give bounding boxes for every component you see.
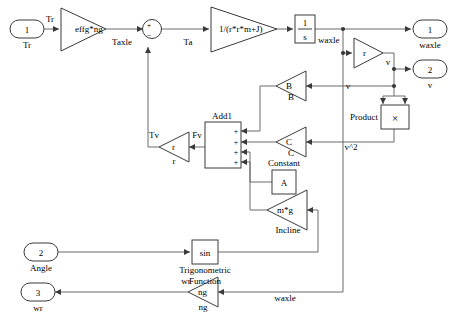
add1-block[interactable]: + + + + [205,122,241,168]
signal-label-waxle1: waxle [318,36,340,45]
signal-label-ta: Ta [184,38,193,47]
gain-ng-caption: ng [199,303,208,312]
gain-incline-expr: m*g [277,205,294,215]
inport-tr-number: 1 [25,25,30,35]
gain-B-expr: B [286,81,292,91]
integrator-numerator: 1 [303,18,308,28]
trig-caption-line2: Function [189,277,221,286]
constant-value: A [281,178,288,188]
outport-v[interactable]: 2 [413,60,447,78]
add1-sign-2: + [234,138,239,147]
gain-r-wheel-expr: r [363,48,366,58]
outport-wr[interactable]: 3 [21,283,55,301]
trig-caption-line1: Trigonometric [179,266,231,275]
signal-label-wr: wr [181,277,191,286]
outport-v-number: 2 [428,65,433,75]
gain-ng-expr: ng [198,287,208,297]
product-symbol: × [392,112,398,124]
inport-angle[interactable]: 2 [24,243,58,261]
add1-sign-4: + [234,158,239,167]
signal-label-fv: Fv [192,131,202,140]
sum-sign-minus: − [147,31,152,40]
inport-tr[interactable]: 1 [10,20,44,38]
outport-waxle-number: 1 [428,25,433,35]
signal-label-v2: v [346,82,351,91]
outport-wr-caption: wr [33,304,43,313]
outport-v-caption: v [428,81,433,90]
sum-block[interactable]: + − [143,20,162,41]
gain-r-torque-expr: r [172,142,175,152]
junction-v-2 [392,84,396,88]
junction-v [392,67,396,71]
gain-plant-expr: 1/(r*r*m+J) [219,24,263,34]
gain-C-caption: C [288,149,294,158]
junction-waxle-2 [341,51,345,55]
block-diagram-canvas: 1 effg*ng + − 1/(r*r*m+J) 1 s 1 [0,0,460,328]
wire-incline-to-add1 [241,162,267,210]
product-block[interactable]: × [381,105,409,129]
integrator-block[interactable]: 1 s [295,15,315,43]
trig-function-value: sin [200,248,211,258]
junction-waxle [341,27,345,31]
gain-r-wheel[interactable]: r [354,38,383,68]
signal-label-taxle: Taxle [112,38,132,47]
gain-r-torque-caption: r [173,157,176,166]
product-caption: Product [350,113,378,122]
outport-waxle-caption: waxle [419,41,441,50]
gain-incline-caption: Incline [276,226,301,235]
sum-sign-plus: + [147,21,152,30]
signal-label-vsq: v^2 [344,143,357,152]
integrator-denominator: s [303,32,307,42]
constant-caption: Constant [268,159,300,168]
add1-sign-3: + [234,148,239,157]
add1-sign-1: + [234,127,239,136]
trig-function-block[interactable]: sin [192,240,218,264]
gain-effgng[interactable]: effg*ng [61,8,106,51]
signal-label-waxle2: waxle [274,294,296,303]
signal-label-tr: Tr [46,15,54,24]
inport-tr-caption: Tr [23,41,31,50]
inport-angle-number: 2 [39,248,44,258]
outport-wr-number: 3 [36,288,41,298]
add1-caption: Add1 [212,112,232,121]
gain-incline[interactable]: m*g [267,190,307,230]
gain-plant-transfer[interactable]: 1/(r*r*m+J) [211,7,277,52]
gain-effgng-expr: effg*ng [75,24,103,34]
gain-B-caption: B [288,93,294,102]
signal-label-v1: v [386,58,391,67]
diagram-svg: 1 effg*ng + − 1/(r*r*m+J) 1 s 1 [0,0,460,328]
wire-B-to-add1 [241,86,276,131]
gain-C-expr: C [286,137,292,147]
wire-v-to-product-in1 [383,86,394,104]
constant-block[interactable]: A [272,170,296,194]
signal-label-tv: Tv [149,131,159,140]
inport-angle-caption: Angle [30,264,52,273]
wire-v-to-product-in2 [394,96,405,104]
outport-waxle[interactable]: 1 [413,20,447,38]
wire-vsq-to-C [306,128,394,142]
